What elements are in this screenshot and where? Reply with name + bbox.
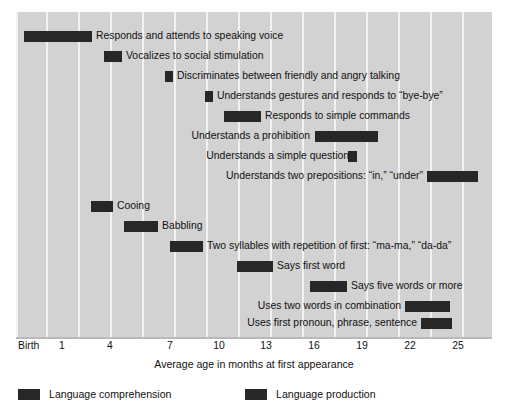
milestone-label: Responds to simple commands	[265, 108, 410, 123]
bar-row: Understands gestures and responds to “by…	[16, 89, 492, 104]
x-tick-label: 16	[308, 340, 320, 351]
milestone-label: Understands two prepositions: “in,” “und…	[226, 168, 423, 183]
bar-row: Babbling	[16, 219, 492, 234]
language-milestones-chart: Responds and attends to speaking voiceVo…	[0, 0, 508, 410]
milestone-label: Discriminates between friendly and angry…	[177, 68, 400, 83]
bar-row: Vocalizes to social stimulation	[16, 49, 492, 64]
milestone-label: Understands a prohibition	[192, 128, 310, 143]
x-tick-label: 13	[260, 340, 272, 351]
bar-row: Understands a simple question	[16, 149, 492, 164]
bar-row: Understands two prepositions: “in,” “und…	[16, 169, 492, 184]
milestone-bar	[165, 71, 173, 82]
milestone-bar	[170, 241, 203, 252]
milestone-bar	[315, 131, 378, 142]
milestone-bar	[427, 171, 478, 182]
x-tick-label: 7	[167, 340, 173, 351]
milestone-label: Two syllables with repetition of first: …	[207, 238, 451, 253]
milestone-bar	[205, 91, 213, 102]
x-tick-label: Birth	[18, 340, 39, 351]
milestone-label: Understands gestures and responds to “by…	[217, 88, 443, 103]
bar-row: Discriminates between friendly and angry…	[16, 69, 492, 84]
x-tick-label: 19	[356, 340, 368, 351]
milestone-label: Babbling	[162, 218, 202, 233]
bar-row: Uses two words in combination	[16, 299, 492, 314]
x-axis-line	[16, 337, 492, 339]
milestone-label: Says five words or more	[351, 278, 462, 293]
x-axis-title: Average age in months at first appearanc…	[0, 358, 508, 370]
x-tick-label: 10	[213, 340, 225, 351]
milestone-bar	[310, 281, 347, 292]
bar-row: Says first word	[16, 259, 492, 274]
chart-legend: Language comprehensionLanguage productio…	[18, 388, 498, 406]
milestone-bar	[224, 111, 261, 122]
x-tick-label: 4	[107, 340, 113, 351]
milestone-label: Uses two words in combination	[258, 298, 401, 313]
bar-row: Two syllables with repetition of first: …	[16, 239, 492, 254]
chart-plot-area: Responds and attends to speaking voiceVo…	[16, 12, 492, 337]
x-tick-label: 1	[59, 340, 65, 351]
legend-swatch	[245, 389, 267, 400]
legend-label: Language comprehension	[49, 388, 172, 400]
bar-row: Says five words or more	[16, 279, 492, 294]
milestone-bar	[348, 151, 357, 162]
x-axis-tick-labels: Birth147101316192225	[0, 340, 508, 356]
legend-item: Language comprehension	[18, 388, 172, 400]
bar-row: Responds and attends to speaking voice	[16, 29, 492, 44]
milestone-bar	[104, 51, 122, 62]
milestone-bar	[405, 301, 450, 312]
milestone-label: Says first word	[277, 258, 345, 273]
milestone-bar	[24, 31, 92, 42]
bar-row: Uses first pronoun, phrase, sentence	[16, 316, 492, 331]
bar-row: Understands a prohibition	[16, 129, 492, 144]
milestone-bar	[421, 318, 452, 329]
x-tick-label: 25	[452, 340, 464, 351]
legend-item: Language production	[245, 388, 376, 400]
milestone-bar	[91, 201, 113, 212]
milestone-label: Responds and attends to speaking voice	[96, 28, 283, 43]
legend-label: Language production	[276, 388, 376, 400]
bar-row: Responds to simple commands	[16, 109, 492, 124]
bar-row: Cooing	[16, 199, 492, 214]
legend-swatch	[18, 389, 40, 400]
milestone-label: Cooing	[117, 198, 150, 213]
milestone-label: Vocalizes to social stimulation	[126, 48, 263, 63]
milestone-bar	[124, 221, 158, 232]
milestone-label: Understands a simple question	[206, 148, 349, 163]
x-tick-label: 22	[404, 340, 416, 351]
milestone-bar	[237, 261, 273, 272]
milestone-label: Uses first pronoun, phrase, sentence	[247, 315, 417, 330]
